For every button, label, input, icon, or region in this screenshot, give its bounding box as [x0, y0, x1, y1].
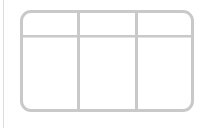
canvas [0, 0, 217, 128]
body-cell-1 [23, 38, 77, 109]
grid-layout-icon [20, 10, 194, 112]
header-cell-3 [138, 13, 191, 35]
body-cell-2 [80, 38, 135, 109]
header-cell-1 [23, 13, 77, 35]
left-border-line [3, 0, 4, 128]
body-cell-3 [138, 38, 191, 109]
header-cell-2 [80, 13, 135, 35]
